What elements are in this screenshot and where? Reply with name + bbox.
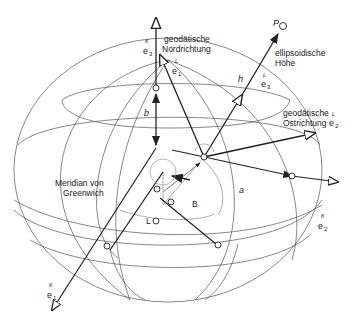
meridian-right	[168, 60, 297, 260]
label-K-e2-sub: 2	[324, 226, 328, 232]
label-K-e3-sub: 3	[149, 51, 153, 57]
parallel-lower	[30, 235, 310, 268]
label-L-e2-sup: L	[332, 111, 335, 117]
parallel-upper	[18, 117, 320, 145]
point-normal-foot	[168, 199, 174, 205]
label-L-e1-sub: 1	[178, 71, 182, 77]
label-h: h	[238, 74, 243, 84]
front-curve-arrow	[160, 198, 216, 244]
point-surface	[201, 154, 207, 160]
label-L-e3-sub: 3	[267, 84, 271, 90]
label-K-e1-sup: K	[49, 282, 53, 288]
label-K-e3-base: e	[143, 46, 148, 56]
axis-L-e3	[204, 95, 242, 157]
label-meridian-2: Greenwich	[63, 188, 104, 198]
label-L-e1-base: e	[172, 66, 177, 76]
label-K-e1-sub: 1	[53, 295, 57, 301]
equator	[14, 200, 322, 245]
ellipsoid-outline	[14, 38, 322, 302]
to-center	[110, 172, 163, 250]
label-K-e1-base: e	[47, 290, 52, 300]
point-greenwich-equator	[104, 243, 110, 249]
label-L-e2-sub: 2	[335, 123, 339, 129]
point-e2-axis	[289, 173, 295, 179]
label-geodetic-east-1: geodätische	[283, 108, 329, 118]
height-line	[242, 34, 278, 95]
point-front-equator	[215, 242, 221, 248]
label-K-e2-base: e	[318, 221, 323, 231]
axis-L-e1	[160, 55, 204, 157]
label-L-e1-sup: L	[175, 58, 178, 64]
label-L-e3-base: e	[261, 79, 266, 89]
axis-K-e1	[52, 148, 156, 310]
label-geodetic-east-2: Ostrichtung	[283, 118, 327, 128]
meridian-front-right	[205, 244, 238, 300]
label-L-e2-base: e	[329, 118, 334, 128]
construction-lines	[120, 157, 223, 220]
axis-K-e2	[292, 176, 338, 182]
axis-L-e2	[204, 133, 315, 157]
point-north-pole	[153, 85, 159, 91]
label-L-e3-sup: L	[263, 72, 266, 78]
ellipsoid-diagram: K e 3 geodätische Nordrichtung L e 1 P e…	[0, 0, 355, 323]
label-K-e3-sup: K	[145, 38, 149, 44]
label-b: b	[144, 108, 149, 118]
label-ellipsoidal-height-1: ellipsoidische	[275, 48, 326, 58]
label-a: a	[239, 185, 244, 195]
point-L	[153, 218, 159, 224]
label-B: B	[192, 199, 198, 209]
label-L: L	[146, 216, 151, 226]
point-center	[154, 186, 160, 192]
label-ellipsoidal-height-2: Höhe	[275, 58, 296, 68]
text-labels: K e 3 geodätische Nordrichtung L e 1 P e…	[47, 18, 339, 301]
label-meridian-1: Meridian von	[55, 178, 104, 188]
label-geodetic-north-1: geodätische	[164, 34, 210, 44]
meridian-center-left	[116, 60, 168, 300]
point-P	[280, 23, 287, 30]
points	[104, 23, 295, 250]
label-K-e2-sup: K	[321, 213, 325, 219]
label-geodetic-north-2: Nordrichtung	[162, 44, 211, 54]
label-P: P	[273, 18, 279, 28]
ellipsoid-grid	[14, 38, 322, 302]
